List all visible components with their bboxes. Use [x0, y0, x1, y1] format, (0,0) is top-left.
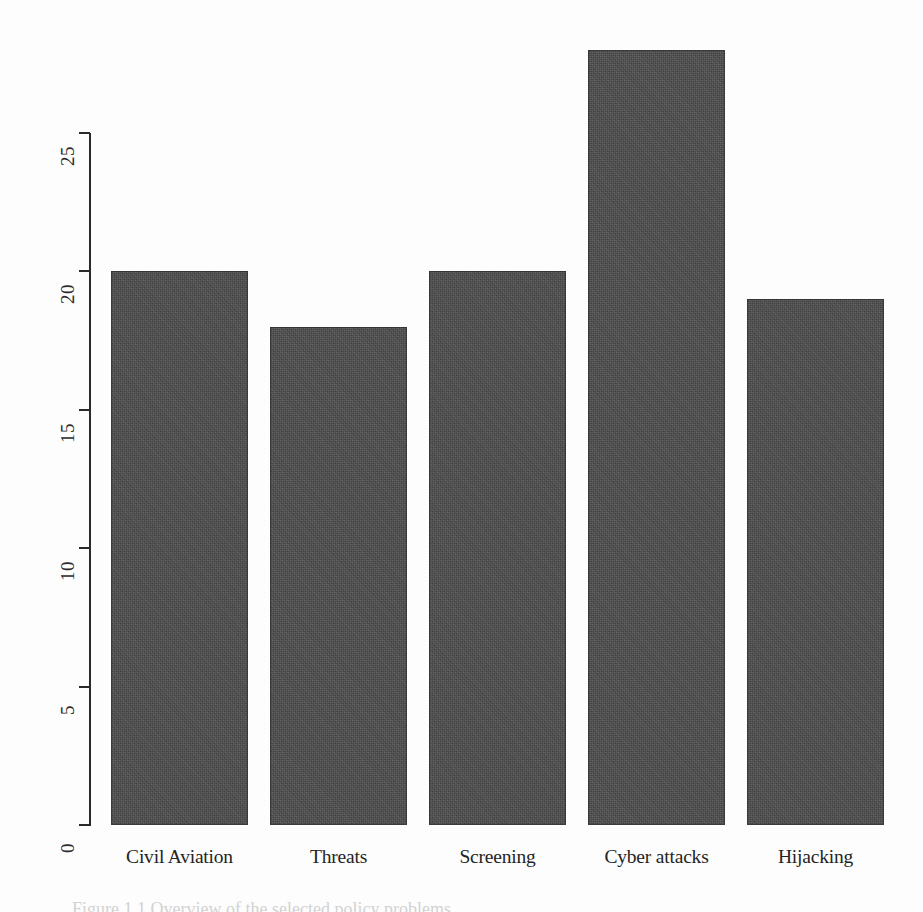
- y-tick-label: 0: [57, 825, 79, 871]
- bar-screening: [429, 271, 566, 825]
- figure-page: 0510152025 Civil AviationThreatsScreenin…: [0, 0, 923, 912]
- x-label-hijacking: Hijacking: [717, 846, 914, 868]
- bar-chart-plot: 0510152025 Civil AviationThreatsScreenin…: [0, 0, 923, 912]
- y-tick-mark: [79, 547, 90, 549]
- figure-caption: Figure 1.1 Overview of the selected poli…: [72, 898, 832, 912]
- y-axis-line: [89, 133, 91, 826]
- bar-hijacking: [747, 299, 884, 825]
- y-tick-mark: [79, 132, 90, 134]
- y-tick-mark: [79, 824, 90, 826]
- bar-cyber-attacks: [588, 50, 725, 825]
- y-tick-mark: [79, 409, 90, 411]
- bar-civil-aviation: [111, 271, 248, 825]
- y-tick-label: 20: [57, 271, 79, 317]
- y-tick-mark: [79, 686, 90, 688]
- bar-threats: [270, 327, 407, 825]
- y-tick-label: 25: [57, 133, 79, 179]
- y-tick-label: 5: [57, 687, 79, 733]
- y-tick-label: 10: [57, 548, 79, 594]
- y-tick-mark: [79, 270, 90, 272]
- y-tick-label: 15: [57, 410, 79, 456]
